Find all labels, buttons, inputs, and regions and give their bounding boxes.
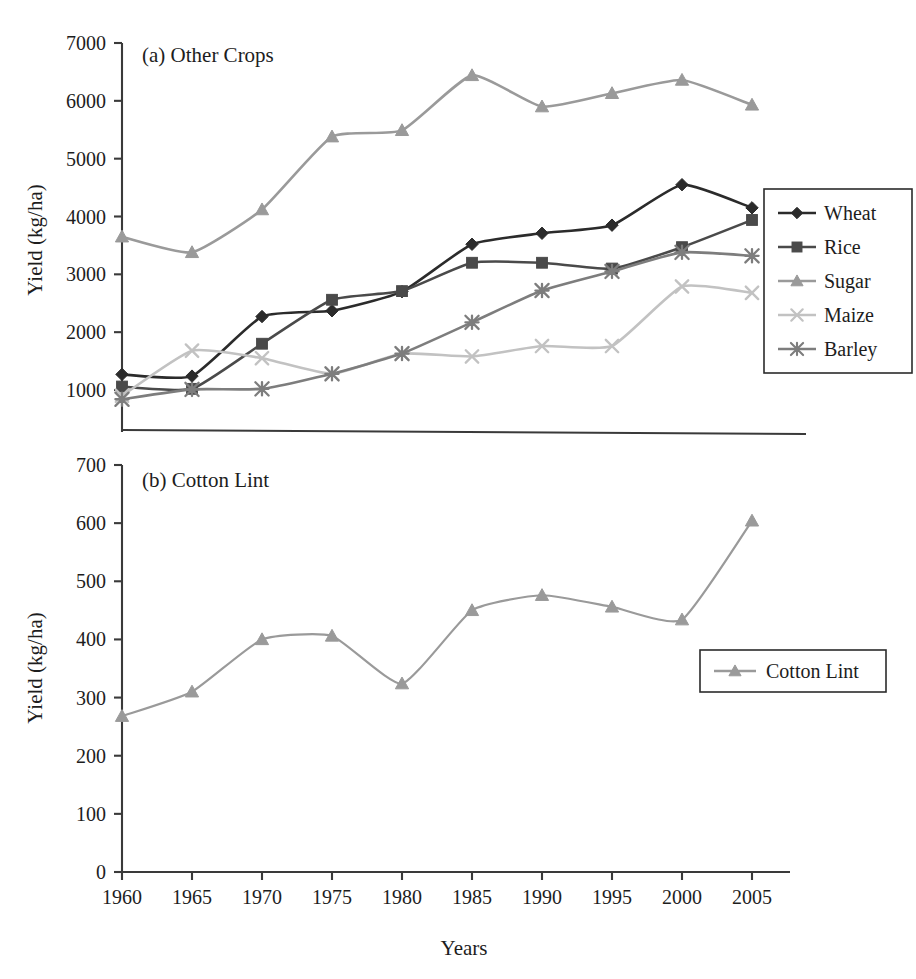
y-tick-label: 200 — [76, 745, 106, 767]
marker-asterisk-icon — [791, 343, 803, 355]
y-tick-label: 600 — [76, 512, 106, 534]
y-tick-label: 5000 — [66, 148, 106, 170]
marker-square-icon — [747, 215, 758, 226]
square-marker — [537, 257, 548, 268]
square-marker — [327, 294, 338, 305]
y-tick-label: 6000 — [66, 90, 106, 112]
figure-background — [0, 0, 916, 979]
y-tick-label: 3000 — [66, 263, 106, 285]
marker-asterisk-icon — [675, 246, 688, 259]
square-marker — [467, 257, 478, 268]
marker-square-icon — [537, 257, 548, 268]
marker-asterisk-icon — [115, 393, 128, 406]
y-tick-label: 4000 — [66, 206, 106, 228]
x-tick-label: 1975 — [312, 886, 352, 908]
panel-b-y-axis-label: Yield (kg/ha) — [23, 612, 47, 723]
legend-label: Sugar — [824, 270, 871, 293]
legend-label: Cotton Lint — [766, 660, 859, 682]
panel-b-legend: Cotton Lint — [700, 650, 886, 692]
panel-a-title: (a) Other Crops — [142, 43, 274, 67]
asterisk-marker — [185, 383, 198, 396]
asterisk-marker — [675, 246, 688, 259]
y-tick-label: 700 — [76, 454, 106, 476]
y-tick-label: 7000 — [66, 32, 106, 54]
asterisk-marker — [325, 367, 338, 380]
marker-asterisk-icon — [185, 383, 198, 396]
y-tick-label: 1000 — [66, 379, 106, 401]
asterisk-marker — [791, 343, 803, 355]
square-marker — [397, 286, 408, 297]
x-tick-label: 1990 — [522, 886, 562, 908]
y-tick-label: 0 — [96, 861, 106, 883]
legend-label: Rice — [824, 236, 861, 258]
asterisk-marker — [395, 347, 408, 360]
x-tick-label: 1980 — [382, 886, 422, 908]
marker-square-icon — [257, 338, 268, 349]
asterisk-marker — [255, 382, 268, 395]
marker-square-icon — [467, 257, 478, 268]
panel-a-y-axis-label: Yield (kg/ha) — [23, 184, 47, 295]
x-tick-label: 2000 — [662, 886, 702, 908]
asterisk-marker — [605, 265, 618, 278]
y-tick-label: 2000 — [66, 321, 106, 343]
x-tick-label: 1970 — [242, 886, 282, 908]
panel-b-x-axis-label: Years — [441, 936, 488, 960]
legend-label: Wheat — [824, 202, 877, 224]
marker-asterisk-icon — [745, 249, 758, 262]
asterisk-marker — [535, 284, 548, 297]
square-marker — [747, 215, 758, 226]
x-tick-label: 2005 — [732, 886, 772, 908]
marker-square-icon — [792, 242, 802, 252]
y-tick-label: 300 — [76, 687, 106, 709]
legend-label: Barley — [824, 338, 877, 361]
x-tick-label: 1965 — [172, 886, 212, 908]
asterisk-marker — [465, 316, 478, 329]
panel-a-legend: WheatRiceSugarMaizeBarley — [764, 189, 912, 373]
square-marker — [257, 338, 268, 349]
x-tick-label: 1985 — [452, 886, 492, 908]
figure-root: (a) Other Crops Yield (kg/ha) 7000600050… — [0, 0, 916, 979]
marker-asterisk-icon — [255, 382, 268, 395]
y-tick-label: 400 — [76, 628, 106, 650]
panel-b-title: (b) Cotton Lint — [142, 468, 269, 492]
marker-square-icon — [327, 294, 338, 305]
marker-asterisk-icon — [325, 367, 338, 380]
y-tick-label: 100 — [76, 803, 106, 825]
x-tick-label: 1995 — [592, 886, 632, 908]
asterisk-marker — [115, 393, 128, 406]
y-tick-label: 500 — [76, 570, 106, 592]
square-marker — [792, 242, 802, 252]
marker-square-icon — [397, 286, 408, 297]
asterisk-marker — [745, 249, 758, 262]
marker-asterisk-icon — [535, 284, 548, 297]
x-tick-label: 1960 — [102, 886, 142, 908]
marker-asterisk-icon — [605, 265, 618, 278]
marker-asterisk-icon — [395, 347, 408, 360]
legend-label: Maize — [824, 304, 874, 326]
marker-asterisk-icon — [465, 316, 478, 329]
